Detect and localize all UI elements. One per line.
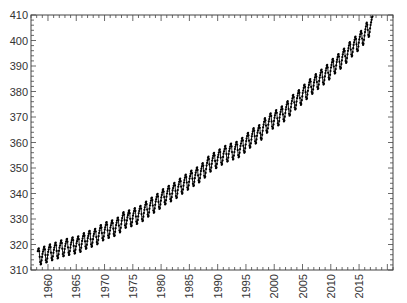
data-point: [172, 187, 174, 189]
x-tick-label: 1985: [183, 274, 195, 298]
data-point: [188, 181, 190, 183]
data-point: [129, 218, 131, 220]
data-point: [292, 94, 294, 96]
data-point: [205, 168, 207, 170]
data-point: [76, 240, 78, 242]
data-point: [131, 221, 133, 223]
data-point: [180, 180, 182, 182]
data-point: [346, 53, 348, 55]
data-point: [353, 41, 355, 43]
data-point: [242, 139, 244, 141]
data-point: [50, 246, 52, 248]
data-point: [295, 104, 297, 106]
data-point: [78, 238, 80, 240]
y-tick-label: 360: [10, 137, 28, 149]
data-point: [293, 101, 295, 103]
data-point: [327, 72, 329, 74]
data-point: [276, 117, 278, 119]
x-tick-label: 1990: [212, 274, 224, 298]
data-point: [336, 59, 338, 61]
data-point: [287, 103, 289, 105]
y-tick-label: 350: [10, 162, 28, 174]
data-point: [168, 187, 170, 189]
data-point: [87, 237, 89, 239]
data-point: [173, 182, 175, 184]
data-point: [144, 206, 146, 208]
data-point: [180, 186, 182, 188]
data-point: [369, 31, 371, 33]
data-point: [251, 135, 253, 137]
data-point: [154, 204, 156, 206]
data-point: [81, 240, 83, 242]
data-point: [306, 94, 308, 96]
data-point: [253, 127, 255, 129]
data-point: [324, 75, 326, 77]
data-point: [199, 177, 201, 179]
data-point: [315, 73, 317, 75]
data-point: [212, 157, 214, 159]
data-point: [100, 224, 102, 226]
data-point: [321, 71, 323, 73]
data-point: [219, 148, 221, 150]
data-point: [254, 135, 256, 137]
data-point: [132, 212, 134, 214]
data-point: [114, 231, 116, 233]
data-point: [63, 251, 65, 253]
data-point: [157, 201, 159, 203]
data-point: [344, 55, 346, 57]
data-point: [360, 30, 362, 32]
data-point: [289, 110, 291, 112]
data-point: [50, 252, 52, 254]
y-tick-label: 310: [10, 264, 28, 276]
data-point: [166, 192, 168, 194]
data-point: [199, 173, 201, 175]
data-point: [47, 254, 49, 256]
data-point: [261, 138, 263, 140]
data-point: [163, 191, 165, 193]
data-point: [371, 19, 373, 21]
x-tick-label: 1965: [70, 274, 82, 298]
data-point: [89, 233, 91, 235]
data-point: [66, 241, 68, 243]
data-point: [245, 140, 247, 142]
data-point: [90, 238, 92, 240]
data-point: [140, 213, 142, 215]
data-point: [207, 156, 209, 158]
data-point: [70, 241, 72, 243]
data-point: [284, 116, 286, 118]
data-point: [211, 160, 213, 162]
data-point: [233, 151, 235, 153]
data-point: [103, 232, 105, 234]
data-point: [89, 230, 91, 232]
data-point: [148, 208, 150, 210]
data-point: [78, 244, 80, 246]
data-point: [340, 67, 342, 69]
data-point: [321, 68, 323, 70]
data-point: [115, 227, 117, 229]
data-point: [86, 240, 88, 242]
data-point: [202, 162, 204, 164]
data-point: [109, 226, 111, 228]
data-point: [108, 233, 110, 235]
data-point: [342, 53, 344, 55]
data-point: [230, 143, 232, 145]
data-point: [125, 226, 127, 228]
data-point: [362, 43, 364, 45]
data-point: [313, 81, 315, 83]
data-point: [358, 38, 360, 40]
data-point: [204, 176, 206, 178]
data-point: [369, 27, 371, 29]
data-point: [259, 127, 261, 129]
data-point: [195, 172, 197, 174]
data-point: [343, 47, 345, 49]
data-point: [74, 252, 76, 254]
data-point: [242, 145, 244, 147]
data-point: [208, 163, 210, 165]
data-point: [134, 207, 136, 209]
data-point: [81, 243, 83, 245]
data-point: [266, 131, 268, 133]
data-point: [332, 60, 334, 62]
data-point: [285, 109, 287, 111]
data-point: [332, 58, 334, 60]
data-point: [86, 244, 88, 246]
